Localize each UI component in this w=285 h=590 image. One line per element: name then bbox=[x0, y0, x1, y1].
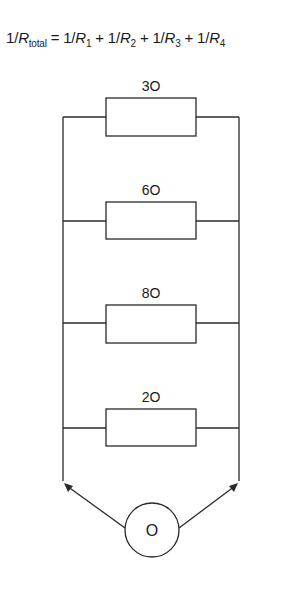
left-probe-wire bbox=[67, 486, 125, 528]
resistor-1-label: 3O bbox=[142, 78, 161, 94]
right-probe-wire bbox=[179, 486, 235, 528]
resistor-1-body bbox=[106, 98, 196, 136]
resistor-2-label: 6O bbox=[142, 182, 161, 198]
resistor-3: 8O bbox=[63, 285, 239, 343]
parallel-circuit-diagram: 3O 6O 8O 2O O bbox=[0, 0, 285, 590]
resistor-2: 6O bbox=[63, 182, 239, 239]
resistor-1: 3O bbox=[63, 78, 239, 136]
resistor-2-body bbox=[106, 202, 196, 239]
meter: O bbox=[125, 503, 179, 557]
resistor-4-label: 2O bbox=[142, 389, 161, 405]
resistor-4: 2O bbox=[63, 389, 239, 446]
right-arrowhead-icon bbox=[229, 483, 238, 492]
resistor-4-body bbox=[106, 409, 196, 446]
resistor-3-label: 8O bbox=[142, 285, 161, 301]
left-arrowhead-icon bbox=[64, 483, 73, 492]
meter-label: O bbox=[146, 522, 158, 539]
resistor-3-body bbox=[106, 305, 196, 343]
